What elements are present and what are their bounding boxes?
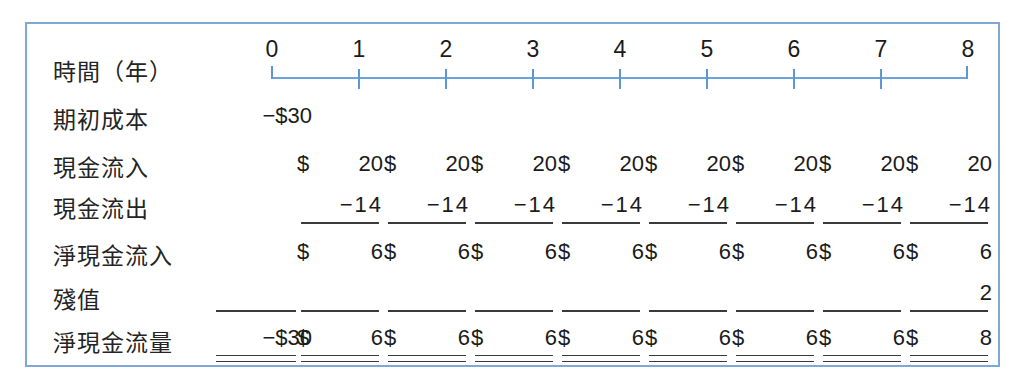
cell-value: 20 — [794, 150, 818, 178]
currency-symbol: $ — [471, 238, 483, 266]
cell-value: 6 — [371, 238, 383, 266]
cell-net-cash-flow-year-3: $ 6 — [471, 324, 557, 352]
cell-initial-cost-year-0: −$30 — [212, 102, 312, 130]
total-rule-year-2 — [388, 355, 466, 362]
cell-net-cash-inflow-year-2: $ 6 — [384, 238, 470, 266]
cell-cash-outflow-year-4: −14 — [558, 191, 644, 219]
total-rule-year-6 — [736, 355, 814, 362]
subtotal-rule-year-1 — [301, 222, 379, 224]
timeline-tick-1 — [358, 69, 360, 89]
currency-symbol: $ — [558, 324, 570, 352]
total-rule-year-8 — [910, 355, 988, 362]
currency-symbol: $ — [558, 150, 570, 178]
currency-symbol: $ — [558, 238, 570, 266]
year-label-1: 1 — [339, 38, 379, 61]
cell-value: −14 — [688, 191, 731, 219]
cell-value: 6 — [719, 238, 731, 266]
year-label-2: 2 — [426, 38, 466, 61]
currency-symbol: $ — [471, 324, 483, 352]
cell-cash-inflow-year-7: $ 20 — [819, 150, 905, 178]
currency-symbol: $ — [732, 238, 744, 266]
cell-value: 20 — [446, 150, 470, 178]
cell-net-cash-flow-year-6: $ 6 — [732, 324, 818, 352]
cell-value: 6 — [632, 238, 644, 266]
currency-symbol: $ — [384, 238, 396, 266]
cell-value: −14 — [862, 191, 905, 219]
currency-symbol: $ — [819, 150, 831, 178]
cell-value: 6 — [806, 324, 818, 352]
year-label-5: 5 — [687, 38, 727, 61]
total-rule-year-0 — [216, 355, 296, 362]
cell-cash-outflow-year-5: −14 — [645, 191, 731, 219]
salvage-rule-year-6 — [736, 310, 814, 312]
subtotal-rule-year-2 — [388, 222, 466, 224]
row-label-cash-inflow: 現金流入 — [53, 157, 243, 180]
cell-cash-outflow-year-1: −14 — [297, 191, 383, 219]
cell-value: 20 — [620, 150, 644, 178]
cell-value: 20 — [359, 150, 383, 178]
cell-net-cash-flow-year-4: $ 6 — [558, 324, 644, 352]
salvage-rule-year-8 — [910, 310, 988, 312]
total-rule-year-3 — [475, 355, 553, 362]
cell-net-cash-flow-year-7: $ 6 — [819, 324, 905, 352]
cell-value: 6 — [632, 324, 644, 352]
subtotal-rule-year-4 — [562, 222, 640, 224]
cell-value: −14 — [427, 191, 470, 219]
year-label-0: 0 — [252, 38, 292, 61]
cell-value: 6 — [980, 238, 992, 266]
cell-value: 20 — [968, 150, 992, 178]
total-rule-year-1 — [301, 355, 379, 362]
cell-value: 8 — [980, 324, 992, 352]
cell-cash-outflow-year-7: −14 — [819, 191, 905, 219]
currency-symbol: $ — [297, 324, 309, 352]
subtotal-rule-year-6 — [736, 222, 814, 224]
currency-symbol: $ — [732, 150, 744, 178]
cell-cash-inflow-year-5: $ 20 — [645, 150, 731, 178]
year-label-7: 7 — [861, 38, 901, 61]
cell-value: 6 — [371, 324, 383, 352]
year-label-4: 4 — [600, 38, 640, 61]
total-rule-year-4 — [562, 355, 640, 362]
currency-symbol: $ — [645, 150, 657, 178]
cell-net-cash-inflow-year-3: $ 6 — [471, 238, 557, 266]
currency-symbol: $ — [906, 324, 918, 352]
timeline-tick-5 — [706, 69, 708, 89]
salvage-rule-year-1 — [301, 310, 379, 312]
timeline-tick-2 — [445, 69, 447, 89]
currency-symbol: $ — [819, 238, 831, 266]
cell-cash-outflow-year-2: −14 — [384, 191, 470, 219]
year-label-3: 3 — [513, 38, 553, 61]
cell-value: 6 — [545, 324, 557, 352]
cell-value: 6 — [893, 238, 905, 266]
cell-value: 20 — [707, 150, 731, 178]
cell-cash-inflow-year-2: $ 20 — [384, 150, 470, 178]
cell-net-cash-inflow-year-7: $ 6 — [819, 238, 905, 266]
cell-value: −14 — [775, 191, 818, 219]
cell-value: 6 — [458, 238, 470, 266]
currency-symbol: $ — [297, 150, 309, 178]
currency-symbol: $ — [645, 324, 657, 352]
salvage-rule-year-0 — [216, 310, 296, 312]
cell-value: −14 — [601, 191, 644, 219]
cell-net-cash-inflow-year-5: $ 6 — [645, 238, 731, 266]
salvage-rule-year-4 — [562, 310, 640, 312]
row-label-salvage-value: 殘值 — [53, 289, 243, 312]
currency-symbol: $ — [906, 238, 918, 266]
currency-symbol: $ — [384, 324, 396, 352]
cell-net-cash-inflow-year-6: $ 6 — [732, 238, 818, 266]
row-label-net-cash-inflow: 淨現金流入 — [53, 245, 243, 268]
cell-value: 2 — [980, 279, 992, 307]
cell-cash-inflow-year-8: $ 20 — [906, 150, 992, 178]
currency-symbol: $ — [384, 150, 396, 178]
year-label-8: 8 — [948, 38, 988, 61]
timeline-tick-7 — [880, 69, 882, 89]
cell-value: −$30 — [262, 102, 312, 130]
subtotal-rule-year-5 — [649, 222, 727, 224]
cell-value: 6 — [458, 324, 470, 352]
cell-cash-inflow-year-3: $ 20 — [471, 150, 557, 178]
cell-value: 6 — [719, 324, 731, 352]
salvage-rule-year-3 — [475, 310, 553, 312]
cell-net-cash-inflow-year-8: $ 6 — [906, 238, 992, 266]
total-rule-year-7 — [823, 355, 901, 362]
cell-cash-inflow-year-6: $ 20 — [732, 150, 818, 178]
